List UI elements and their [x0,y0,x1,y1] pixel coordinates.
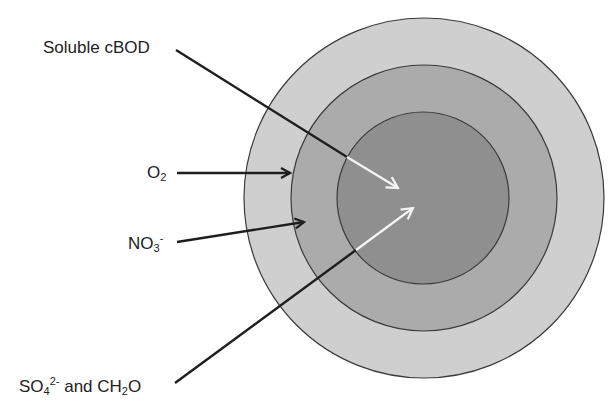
concentric-zone-diagram [0,0,616,417]
label-so4-ch2o: SO42- and CH2O [19,378,141,395]
superscript: - [160,232,164,244]
label-soluble-cbod: Soluble cBOD [43,39,150,56]
label-o2: O2 [147,164,166,181]
label-no3: NO3- [128,235,163,252]
label-text: and CH [59,377,121,396]
inner-zone [337,112,509,284]
superscript: 2- [50,375,60,387]
label-text: NO [128,234,154,253]
subscript: 2 [160,171,166,183]
label-text: O [128,377,141,396]
label-text: SO [19,377,44,396]
label-text: Soluble cBOD [43,38,150,57]
label-text: O [147,163,160,182]
